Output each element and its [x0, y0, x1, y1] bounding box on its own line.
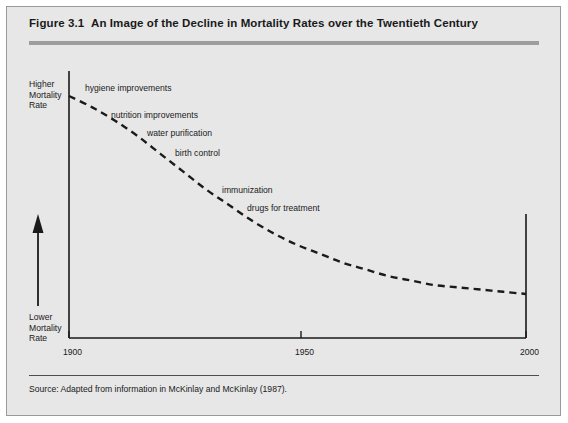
annotation-nutrition-improvements: nutrition improvements [111, 110, 198, 120]
annotation-hygiene-improvements: hygiene improvements [85, 83, 171, 93]
up-arrow-icon [33, 214, 44, 306]
chart-plot-area: Higher Mortality Rate Lower Mortality Ra… [7, 7, 562, 417]
figure-panel: Figure 3.1 An Image of the Decline in Mo… [6, 6, 561, 416]
y-axis-label-low: Lower Mortality Rate [29, 312, 75, 344]
x-tick-label-1900: 1900 [63, 347, 82, 357]
annotation-water-purification: water purification [147, 128, 212, 138]
mortality-decline-curve [69, 96, 526, 294]
x-tick-label-1950: 1950 [295, 347, 314, 357]
annotation-birth-control: birth control [175, 148, 220, 158]
annotation-immunization: immunization [222, 185, 273, 195]
footer-rule [29, 375, 539, 376]
annotation-drugs-for-treatment: drugs for treatment [247, 203, 320, 213]
x-tick-label-2000: 2000 [520, 347, 539, 357]
source-note: Source: Adapted from information in McKi… [29, 384, 287, 394]
y-axis-label-high: Higher Mortality Rate [29, 79, 75, 111]
